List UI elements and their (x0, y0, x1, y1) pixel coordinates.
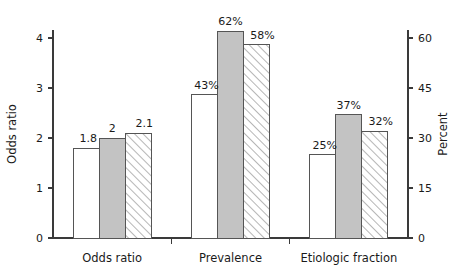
bar-hatched-3 (362, 131, 388, 238)
bar-value-label: 2 (109, 122, 116, 135)
bar-hatched-1 (125, 133, 151, 238)
right-tick-label: 0 (418, 232, 425, 245)
right-tick-label: 15 (418, 182, 432, 195)
bar-value-label: 62% (218, 15, 242, 28)
left-axis-title: Odds ratio (5, 104, 19, 164)
left-tick-label: 1 (36, 182, 43, 195)
x-axis-category-label: Prevalence (199, 251, 262, 265)
right-axis: 015304560 (408, 30, 432, 245)
right-tick-label: 30 (418, 132, 432, 145)
left-tick-label: 0 (36, 232, 43, 245)
bar-hatched-2 (244, 45, 270, 238)
bar-value-label: 32% (369, 115, 393, 128)
bar-open-1 (73, 148, 99, 238)
x-axis-category-label: Etiologic fraction (300, 251, 397, 265)
left-axis: 01234 (36, 30, 53, 245)
bars-layer (73, 31, 388, 238)
grouped-bar-chart: 01234 015304560 Odds ratioPrevalenceEtio… (0, 0, 461, 278)
bar-value-label: 58% (250, 29, 274, 42)
bar-value-label: 25% (313, 139, 337, 152)
bar-value-label: 43% (194, 79, 218, 92)
left-tick-label: 3 (36, 82, 43, 95)
bar-solid-1 (99, 138, 125, 238)
chart-container: 01234 015304560 Odds ratioPrevalenceEtio… (0, 0, 461, 278)
left-tick-label: 2 (36, 132, 43, 145)
x-axis: Odds ratioPrevalenceEtiologic fraction (53, 238, 408, 265)
right-axis-title: Percent (436, 112, 450, 156)
bar-open-3 (310, 155, 336, 238)
bar-solid-2 (218, 31, 244, 238)
x-axis-category-label: Odds ratio (82, 251, 142, 265)
bar-open-2 (192, 95, 218, 238)
right-tick-label: 60 (418, 32, 432, 45)
left-tick-label: 4 (36, 32, 43, 45)
bar-value-label: 2.1 (135, 117, 153, 130)
bar-value-label: 37% (337, 99, 361, 112)
bar-value-label: 1.8 (79, 132, 97, 145)
bar-solid-3 (336, 115, 362, 238)
right-tick-label: 45 (418, 82, 432, 95)
